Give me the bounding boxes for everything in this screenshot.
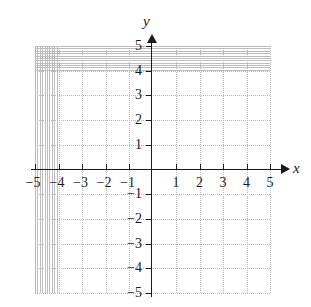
y-axis-arrow-icon: [147, 34, 157, 43]
y-tick-label--5: −5: [114, 286, 142, 300]
y-tick--3: [146, 244, 152, 245]
gridline-horizontal-y-3: [35, 244, 270, 245]
y-tick--1: [146, 194, 152, 195]
y-tick-1: [146, 145, 152, 146]
gridline-horizontal-y5: [35, 46, 270, 47]
x-tick-4: [247, 164, 248, 170]
gridline-horizontal-y2: [35, 120, 270, 121]
coordinate-plane: −5 −4 −3 −2 −1 1 2 3 4 5 5 4 3 2 1 −1 −2…: [0, 0, 311, 307]
x-axis-arrow-icon: [281, 164, 290, 174]
y-tick-label-4: 4: [116, 64, 142, 78]
y-tick-label--4: −4: [114, 261, 142, 275]
x-tick-label--5: −5: [26, 176, 41, 190]
y-tick--2: [146, 219, 152, 220]
x-tick-label-1: 1: [173, 176, 180, 190]
x-tick-label-2: 2: [196, 176, 203, 190]
x-tick-label--4: −4: [50, 176, 65, 190]
x-tick-5: [270, 164, 271, 170]
y-tick-5: [146, 46, 152, 47]
y-tick-label--1: −1: [114, 187, 142, 201]
x-tick--4: [59, 164, 60, 170]
gridline-horizontal-y4: [35, 71, 270, 72]
gridline-horizontal-y3: [35, 95, 270, 96]
x-tick-label-4: 4: [243, 176, 250, 190]
x-tick-label--2: −2: [97, 176, 112, 190]
y-tick-label--3: −3: [114, 237, 142, 251]
gridline-horizontal-y-1: [35, 194, 270, 195]
x-tick-3: [223, 164, 224, 170]
y-tick-label--2: −2: [114, 212, 142, 226]
x-tick--1: [129, 164, 130, 170]
x-tick--5: [35, 164, 36, 170]
x-tick-label-3: 3: [220, 176, 227, 190]
x-tick--2: [106, 164, 107, 170]
gridline-horizontal-y-2: [35, 219, 270, 220]
y-tick-label-5: 5: [116, 39, 142, 53]
y-axis-line: [151, 42, 152, 297]
y-axis-label: y: [143, 14, 150, 29]
x-tick-label--3: −3: [73, 176, 88, 190]
gridline-horizontal-y-5: [35, 293, 270, 294]
gridline-horizontal-y-4: [35, 268, 270, 269]
x-tick-label-5: 5: [267, 176, 274, 190]
y-tick-3: [146, 95, 152, 96]
y-tick--4: [146, 268, 152, 269]
y-tick--5: [146, 293, 152, 294]
y-tick-label-2: 2: [116, 113, 142, 127]
y-tick-4: [146, 71, 152, 72]
y-tick-2: [146, 120, 152, 121]
y-tick-label-1: 1: [116, 138, 142, 152]
x-axis-label: x: [293, 161, 300, 176]
x-tick--3: [82, 164, 83, 170]
x-tick-2: [200, 164, 201, 170]
x-tick-1: [176, 164, 177, 170]
y-tick-label-3: 3: [116, 88, 142, 102]
gridline-horizontal-y1: [35, 145, 270, 146]
